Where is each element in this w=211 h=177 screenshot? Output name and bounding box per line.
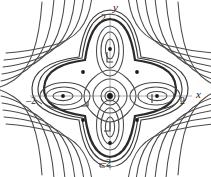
outer-contour-sw-2 [4, 117, 84, 177]
contour-plot-svg [0, 0, 211, 177]
point-center-north [108, 47, 112, 51]
outer-contour-se-2 [136, 117, 211, 177]
point-center-south [108, 141, 112, 145]
outer-contour-nw-3 [3, 0, 75, 67]
point-center-east [155, 94, 159, 98]
point-saddle-se [135, 118, 139, 122]
point-center-origin [107, 93, 113, 99]
x-axis-label: x [196, 89, 201, 100]
y-tick-label-bottom: –2 [101, 158, 111, 168]
outer-contour-ne-2 [136, 0, 211, 60]
outer-contour-sw-3 [3, 110, 75, 177]
outer-contour-nw-5 [1, 0, 54, 81]
lobe-tick-marks [81, 52, 152, 131]
outer-contour-nw-6 [0, 2, 42, 87]
point-saddle-sw [81, 118, 85, 122]
outer-contour-se-3 [145, 110, 211, 177]
outer-contour-ne-3 [145, 0, 211, 67]
outer-contour-se-5 [166, 96, 211, 177]
x-tick-label-left: –2 [26, 96, 36, 106]
point-saddle-ne [135, 70, 139, 74]
outer-contour-sw-5 [1, 96, 54, 177]
x-tick-label-right: 2 [180, 96, 185, 106]
figure-canvas: y x 2 –2 –2 2 [0, 0, 211, 177]
y-axis-label: y [113, 2, 118, 13]
outer-contour-sw-1 [6, 124, 92, 177]
outer-contour-nw-2 [4, 0, 84, 60]
outer-contour-ne-5 [166, 0, 211, 81]
point-saddle-nw [81, 70, 85, 74]
point-center-west [61, 94, 65, 98]
axis-lines [30, 14, 192, 170]
y-tick-label-top: 2 [101, 13, 106, 23]
outer-contour-nw-1 [6, 0, 92, 53]
